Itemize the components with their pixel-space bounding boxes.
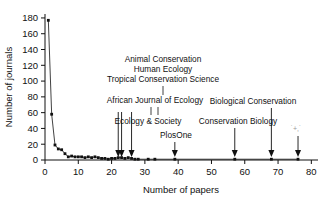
- data-point: [130, 157, 133, 160]
- annotation-animal-conservation: Animal Conservation: [125, 54, 202, 64]
- data-point: [173, 158, 176, 161]
- annotation-ecology-and-society: Ecology & Society: [115, 116, 183, 126]
- data-point: [64, 152, 67, 155]
- data-point: [124, 157, 127, 160]
- y-tick-group: 020406080100120140160180: [22, 12, 45, 165]
- annotation-arrow-head: [172, 150, 178, 157]
- data-point: [147, 158, 150, 161]
- annotation-conservation-biology: Conservation Biology: [199, 116, 278, 126]
- data-point: [233, 158, 236, 161]
- data-point: [67, 155, 70, 158]
- x-tick-label: 60: [239, 166, 250, 177]
- y-tick-label: 0: [33, 154, 38, 165]
- annotation-faint-unlabeled: ˙+,˙: [291, 125, 302, 132]
- y-tick-label: 40: [27, 123, 38, 134]
- annotation-arrow-head: [129, 150, 135, 157]
- data-point: [87, 155, 90, 158]
- data-point: [60, 148, 63, 151]
- y-axis-title: Number of journals: [3, 47, 14, 128]
- y-tick-label: 160: [22, 28, 38, 39]
- annotation-tropical-conservation-science: Tropical Conservation Science: [107, 74, 220, 84]
- data-point: [97, 156, 100, 159]
- data-point: [84, 156, 87, 159]
- data-point: [80, 155, 83, 158]
- y-tick-label: 80: [27, 91, 38, 102]
- annotation-african-journal-of-ecology: African Journal of Ecology: [107, 95, 204, 105]
- annotation-plosone: PlosOne: [160, 130, 192, 140]
- data-point: [153, 158, 156, 161]
- data-point: [270, 158, 273, 161]
- data-point: [77, 155, 80, 158]
- annotation-arrow-head: [268, 150, 274, 157]
- data-point: [127, 156, 130, 159]
- data-point: [104, 157, 107, 160]
- data-point: [94, 155, 97, 158]
- data-point: [47, 19, 50, 22]
- annotation-human-ecology: Human Ecology: [134, 64, 193, 74]
- annotation-arrow-head: [295, 150, 301, 157]
- data-point: [50, 113, 53, 116]
- x-tick-label: 0: [42, 166, 47, 177]
- y-tick-label: 60: [27, 107, 38, 118]
- data-point: [57, 148, 60, 151]
- x-tick-label: 50: [206, 166, 217, 177]
- data-point: [133, 158, 136, 161]
- data-point: [70, 155, 73, 158]
- x-tick-group: 01020304050607080: [42, 160, 316, 177]
- figure-root: 020406080100120140160180 010203040506070…: [0, 0, 330, 201]
- scatter-chart: 020406080100120140160180 010203040506070…: [0, 0, 330, 201]
- data-point: [100, 157, 103, 160]
- data-point: [54, 144, 57, 147]
- x-tick-label: 10: [73, 166, 84, 177]
- data-point: [297, 158, 300, 161]
- data-point: [137, 158, 140, 161]
- data-point: [74, 155, 77, 158]
- y-tick-label: 180: [22, 12, 38, 23]
- x-tick-label: 20: [106, 166, 117, 177]
- data-point: [110, 157, 113, 160]
- annotation-biological-conservation: Biological Conservation: [210, 96, 297, 106]
- y-tick-label: 120: [22, 60, 38, 71]
- x-tick-label: 30: [140, 166, 151, 177]
- y-tick-label: 140: [22, 44, 38, 55]
- x-tick-label: 40: [173, 166, 184, 177]
- x-tick-label: 70: [273, 166, 284, 177]
- x-tick-label: 80: [306, 166, 317, 177]
- x-axis-title: Number of papers: [143, 184, 219, 195]
- data-point: [107, 158, 110, 161]
- y-tick-label: 20: [27, 139, 38, 150]
- data-point: [90, 156, 93, 159]
- y-tick-label: 100: [22, 75, 38, 86]
- annotation-arrow-head: [232, 150, 238, 157]
- data-point: [114, 157, 117, 160]
